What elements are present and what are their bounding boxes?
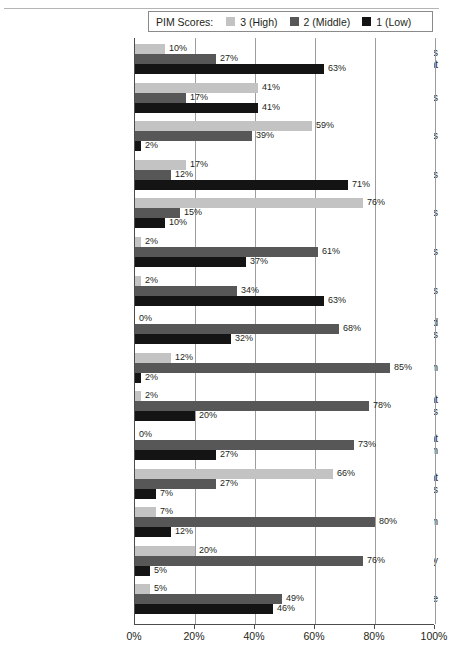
bar-3-high-: 5%: [135, 584, 434, 594]
bar-value-label: 76%: [367, 555, 385, 566]
bar-2-middle-: 78%: [135, 401, 434, 411]
plot-area: 10%27%63%41%17%41%59%39%2%17%12%71%76%15…: [134, 38, 434, 625]
bar-group: 41%17%41%: [135, 83, 434, 113]
bar-group: 20%76%5%: [135, 546, 434, 576]
bar-group: 0%68%32%: [135, 314, 434, 344]
bar-rect: [135, 334, 231, 344]
legend-label-middle: 2 (Middle): [304, 16, 351, 28]
bar-1-low-: 32%: [135, 334, 434, 344]
bar-1-low-: 46%: [135, 604, 434, 614]
bar-rect: [135, 237, 141, 247]
x-tick-label-20: 20%: [169, 630, 219, 642]
bar-rect: [135, 286, 237, 296]
bar-rect: [135, 479, 216, 489]
bar-3-high-: 2%: [135, 237, 434, 247]
bar-2-middle-: 27%: [135, 54, 434, 64]
bar-group: 2%61%37%: [135, 237, 434, 267]
legend-swatch-high: [226, 17, 235, 26]
bar-3-high-: 41%: [135, 83, 434, 93]
legend-label-low: 1 (Low): [376, 16, 411, 28]
x-tick-mark-100: [434, 625, 435, 629]
bar-rect: [135, 363, 390, 373]
bar-rect: [135, 556, 363, 566]
bar-rect: [135, 276, 141, 286]
top-divider: [4, 8, 439, 9]
bar-1-low-: 2%: [135, 141, 434, 151]
bar-value-label: 0%: [139, 429, 152, 440]
x-tick-label-80: 80%: [349, 630, 399, 642]
bar-value-label: 7%: [160, 488, 173, 499]
bar-rect: [135, 64, 324, 74]
bar-1-low-: 71%: [135, 180, 434, 190]
bar-value-label: 34%: [241, 285, 259, 296]
bar-2-middle-: 76%: [135, 556, 434, 566]
bar-rect: [135, 373, 141, 383]
bar-value-label: 68%: [343, 323, 361, 334]
bar-value-label: 76%: [367, 197, 385, 208]
legend-item-high: 3 (High): [226, 16, 277, 28]
bar-rect: [135, 54, 216, 64]
legend-swatch-low: [362, 17, 371, 26]
bar-rect: [135, 594, 282, 604]
bar-value-label: 61%: [322, 246, 340, 257]
bar-3-high-: 66%: [135, 469, 434, 479]
bar-value-label: 20%: [199, 410, 217, 421]
bar-value-label: 80%: [379, 516, 397, 527]
bar-2-middle-: 85%: [135, 363, 434, 373]
bar-value-label: 2%: [145, 275, 158, 286]
bar-1-low-: 20%: [135, 411, 434, 421]
bar-rect: [135, 450, 216, 460]
bar-group: 2%78%20%: [135, 391, 434, 421]
bar-rect: [135, 566, 150, 576]
bar-rect: [135, 546, 195, 556]
bar-group: 0%73%27%: [135, 430, 434, 460]
bar-rect: [135, 353, 171, 363]
bar-1-low-: 37%: [135, 257, 434, 267]
bar-1-low-: 10%: [135, 218, 434, 228]
bar-value-label: 20%: [199, 545, 217, 556]
bar-value-label: 2%: [145, 372, 158, 383]
bar-rect: [135, 507, 156, 517]
bar-value-label: 71%: [352, 179, 370, 190]
bar-group: 2%34%63%: [135, 276, 434, 306]
x-tick-mark-40: [254, 625, 255, 629]
bar-3-high-: 59%: [135, 121, 434, 131]
x-tick-mark-80: [374, 625, 375, 629]
bar-value-label: 0%: [139, 313, 152, 324]
bar-value-label: 63%: [328, 295, 346, 306]
bar-rect: [135, 527, 171, 537]
bar-group: 66%27%7%: [135, 469, 434, 499]
bar-value-label: 66%: [337, 468, 355, 479]
bar-rect: [135, 489, 156, 499]
bar-value-label: 5%: [154, 583, 167, 594]
bar-value-label: 27%: [220, 449, 238, 460]
bar-2-middle-: 34%: [135, 286, 434, 296]
bar-value-label: 12%: [175, 352, 193, 363]
bar-value-label: 27%: [220, 53, 238, 64]
bar-rect: [135, 198, 363, 208]
legend-swatch-middle: [290, 17, 299, 26]
bar-rect: [135, 257, 246, 267]
bar-rect: [135, 170, 171, 180]
bar-2-middle-: 12%: [135, 170, 434, 180]
bar-rect: [135, 411, 195, 421]
legend-item-middle: 2 (Middle): [290, 16, 351, 28]
bar-value-label: 12%: [175, 526, 193, 537]
bar-2-middle-: 39%: [135, 131, 434, 141]
x-tick-label-40: 40%: [229, 630, 279, 642]
x-tick-label-0: 0%: [109, 630, 159, 642]
bar-rect: [135, 218, 165, 228]
bar-rect: [135, 391, 141, 401]
bar-group: 17%12%71%: [135, 160, 434, 190]
bar-2-middle-: 73%: [135, 440, 434, 450]
bar-1-low-: 7%: [135, 489, 434, 499]
x-tick-label-60: 60%: [289, 630, 339, 642]
bar-rect: [135, 296, 324, 306]
bar-rect: [135, 584, 150, 594]
bar-value-label: 17%: [190, 92, 208, 103]
bar-1-low-: 12%: [135, 527, 434, 537]
bar-rect: [135, 440, 354, 450]
chart-legend: PIM Scores: 3 (High) 2 (Middle) 1 (Low): [148, 11, 433, 32]
bar-value-label: 39%: [256, 130, 274, 141]
